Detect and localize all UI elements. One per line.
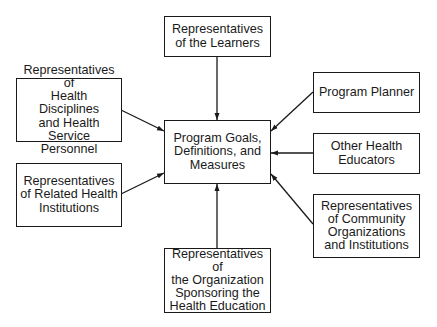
node-health-disciplines: Representatives of Health Disciplines an… bbox=[16, 78, 122, 142]
arrow-health-disciplines bbox=[121, 110, 164, 131]
arrow-related-institutions bbox=[121, 173, 164, 194]
node-other-educators: Other Health Educators bbox=[313, 133, 420, 174]
node-label: Representatives of Health Disciplines an… bbox=[20, 64, 118, 156]
node-label: Program Planner bbox=[319, 86, 414, 99]
node-community: Representatives of Community Organizatio… bbox=[313, 194, 420, 258]
node-sponsoring-organization: Representatives of the Organization Spon… bbox=[164, 248, 271, 313]
arrow-program-planner bbox=[271, 92, 313, 131]
node-label: Representatives of Community Organizatio… bbox=[321, 200, 412, 253]
node-label: Representatives of the Learners bbox=[172, 23, 263, 49]
center-box-program-goals: Program Goals, Definitions, and Measures bbox=[164, 120, 271, 184]
center-box-label: Program Goals, Definitions, and Measures bbox=[173, 132, 261, 172]
node-label: Other Health Educators bbox=[331, 140, 402, 166]
node-label: Representatives of the Organization Spon… bbox=[168, 248, 267, 314]
arrow-community bbox=[271, 174, 313, 224]
node-label: Representatives of Related Health Instit… bbox=[20, 175, 117, 215]
node-related-institutions: Representatives of Related Health Instit… bbox=[16, 163, 122, 227]
node-learners: Representatives of the Learners bbox=[164, 16, 271, 57]
node-program-planner: Program Planner bbox=[313, 72, 420, 113]
